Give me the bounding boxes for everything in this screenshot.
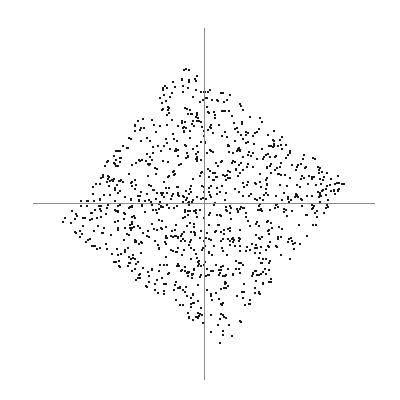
vertical-axis: [204, 28, 205, 380]
scatter-plot-figure: [0, 0, 400, 400]
scatter-points-layer: [0, 0, 400, 400]
